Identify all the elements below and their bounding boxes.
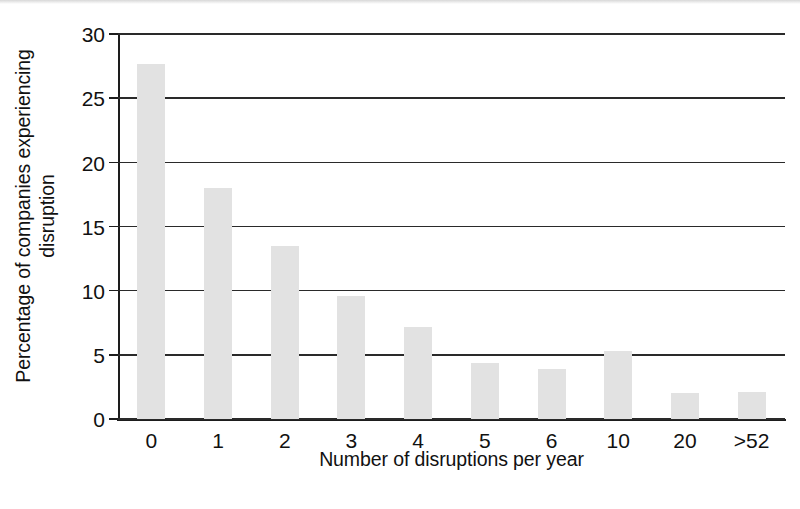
- y-axis-title: Percentage of companies experiencing dis…: [0, 0, 70, 430]
- bar: [404, 327, 432, 419]
- x-axis-title: Number of disruptions per year: [118, 448, 785, 470]
- bar: [137, 64, 165, 419]
- plot-area: 051015202530 01234561020>52: [118, 34, 785, 419]
- bar: [471, 363, 499, 419]
- bar: [604, 351, 632, 419]
- bar: [337, 296, 365, 419]
- bar: [538, 369, 566, 419]
- y-tick-label-25: 25: [82, 88, 105, 109]
- y-tick-mark-25: [109, 97, 118, 99]
- y-tick-label-15: 15: [82, 216, 105, 237]
- bar: [204, 188, 232, 419]
- bar-chart-figure: Percentage of companies experiencing dis…: [0, 0, 800, 509]
- bar: [271, 246, 299, 419]
- y-tick-mark-30: [109, 33, 118, 35]
- gridline-20: 20: [118, 162, 785, 164]
- y-tick-mark-15: [109, 226, 118, 228]
- y-tick-label-0: 0: [93, 409, 105, 430]
- bar: [738, 392, 766, 419]
- y-axis-title-line-1: Percentage of companies experiencing: [11, 49, 35, 383]
- gridline-30: 30: [118, 33, 785, 35]
- y-tick-mark-0: [109, 418, 118, 420]
- bar: [671, 393, 699, 419]
- y-tick-label-30: 30: [82, 24, 105, 45]
- gridline-25: 25: [118, 97, 785, 99]
- y-tick-label-10: 10: [82, 280, 105, 301]
- y-tick-label-5: 5: [93, 345, 105, 366]
- y-tick-mark-10: [109, 290, 118, 292]
- y-axis-title-line-2: disruption: [35, 174, 59, 258]
- y-tick-label-20: 20: [82, 152, 105, 173]
- y-tick-mark-20: [109, 162, 118, 164]
- y-tick-mark-5: [109, 354, 118, 356]
